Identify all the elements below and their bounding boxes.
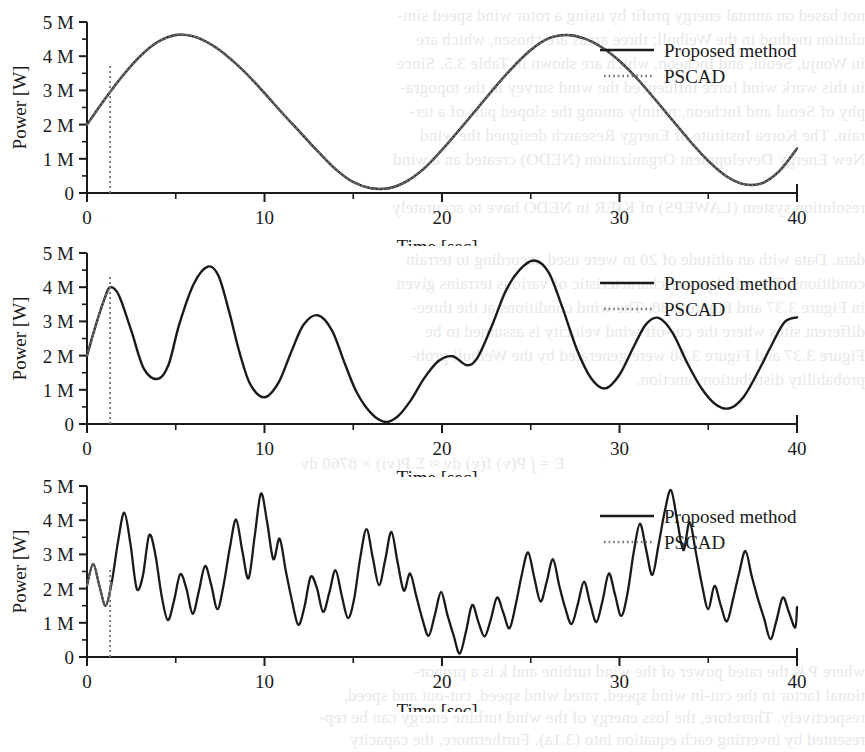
figure-a-y-tick-labels: 01 M2 M3 M4 M5 M bbox=[43, 12, 74, 204]
figure-a-x-tick-labels: 010203040 bbox=[82, 207, 806, 228]
figure-c-y-tick-0: 0 bbox=[65, 647, 75, 668]
figure-b-y-tick-3: 3 M bbox=[43, 311, 74, 332]
figure-b-x-tick-labels: 010203040 bbox=[82, 438, 806, 459]
figure-b-legend-label-pscad: PSCAD bbox=[664, 299, 725, 320]
figure-b-x-tick-3: 30 bbox=[610, 438, 629, 459]
figure-b-power-vs-time: 01 M2 M3 M4 M5 M 010203040 Power [W] Tim… bbox=[0, 231, 865, 477]
figure-a-x-tick-3: 30 bbox=[610, 207, 629, 228]
figure-c-power-vs-time: 01 M2 M3 M4 M5 M 010203040 Power [W] Tim… bbox=[0, 462, 865, 712]
figure-c-y-tick-5: 5 M bbox=[43, 476, 74, 497]
figure-c-x-tick-3: 30 bbox=[610, 671, 629, 692]
figure-b-y-tick-0: 0 bbox=[65, 414, 75, 435]
figure-b-x-tick-4: 40 bbox=[788, 438, 807, 459]
figure-c-legend: Proposed method PSCAD bbox=[600, 506, 797, 553]
figure-b-legend-label-proposed: Proposed method bbox=[664, 273, 797, 294]
figure-c-svg: 01 M2 M3 M4 M5 M 010203040 Power [W] Tim… bbox=[0, 462, 865, 712]
figure-c-y-tick-3: 3 M bbox=[43, 544, 74, 565]
figure-a-y-axis-label: Power [W] bbox=[9, 66, 30, 150]
figure-a-x-tick-4: 40 bbox=[788, 207, 807, 228]
figure-a-x-tick-0: 0 bbox=[82, 207, 92, 228]
figure-c-x-tick-2: 20 bbox=[433, 671, 452, 692]
figure-a-y-tick-2: 2 M bbox=[43, 115, 74, 136]
figure-b-x-tick-0: 0 bbox=[82, 438, 92, 459]
figure-b-y-tick-4: 4 M bbox=[43, 277, 74, 298]
figure-a-power-vs-time: 01 M2 M3 M4 M5 M 010203040 Power [W] Tim… bbox=[0, 0, 865, 246]
figure-b-y-tick-5: 5 M bbox=[43, 243, 74, 264]
figure-a-x-tick-2: 20 bbox=[433, 207, 452, 228]
figure-b-plot: 01 M2 M3 M4 M5 M 010203040 Power [W] Tim… bbox=[9, 243, 807, 477]
figure-b-y-tick-labels: 01 M2 M3 M4 M5 M bbox=[43, 243, 74, 435]
figure-c-plot: 01 M2 M3 M4 M5 M 010203040 Power [W] Tim… bbox=[9, 476, 807, 712]
figure-b-y-tick-2: 2 M bbox=[43, 346, 74, 367]
figure-c-y-tick-labels: 01 M2 M3 M4 M5 M bbox=[43, 476, 74, 668]
figure-a-y-tick-5: 5 M bbox=[43, 12, 74, 33]
figure-b-y-tick-1: 1 M bbox=[43, 380, 74, 401]
figure-a-y-tick-3: 3 M bbox=[43, 80, 74, 101]
figure-a-legend-label-proposed: Proposed method bbox=[664, 40, 797, 61]
figure-a-legend: Proposed method PSCAD bbox=[600, 40, 797, 87]
figure-c-y-tick-4: 4 M bbox=[43, 510, 74, 531]
figure-a-y-tick-1: 1 M bbox=[43, 149, 74, 170]
figure-a-y-tick-0: 0 bbox=[65, 183, 75, 204]
figure-c-legend-label-pscad: PSCAD bbox=[664, 532, 725, 553]
figure-c-x-axis-label: Time [sec] bbox=[396, 700, 477, 712]
figure-c-legend-label-proposed: Proposed method bbox=[664, 506, 797, 527]
figure-b-legend: Proposed method PSCAD bbox=[600, 273, 797, 320]
figure-b-svg: 01 M2 M3 M4 M5 M 010203040 Power [W] Tim… bbox=[0, 231, 865, 477]
figure-a-svg: 01 M2 M3 M4 M5 M 010203040 Power [W] Tim… bbox=[0, 0, 865, 246]
figure-c-x-tick-1: 10 bbox=[255, 671, 274, 692]
figure-b-x-tick-2: 20 bbox=[433, 438, 452, 459]
figure-c-y-axis-label: Power [W] bbox=[9, 530, 30, 614]
figure-a-plot: 01 M2 M3 M4 M5 M 010203040 Power [W] Tim… bbox=[9, 12, 807, 246]
figure-a-y-tick-4: 4 M bbox=[43, 46, 74, 67]
figure-b-x-tick-1: 10 bbox=[255, 438, 274, 459]
figure-c-y-tick-1: 1 M bbox=[43, 613, 74, 634]
figure-b-y-axis-label: Power [W] bbox=[9, 297, 30, 381]
bleed-through-bottom-line-4: resented by inverting each equation into… bbox=[0, 728, 865, 752]
figure-c-y-tick-2: 2 M bbox=[43, 579, 74, 600]
figure-c-x-tick-4: 40 bbox=[788, 671, 807, 692]
figure-a-legend-label-pscad: PSCAD bbox=[664, 66, 725, 87]
figure-c-x-tick-labels: 010203040 bbox=[82, 671, 806, 692]
figure-a-x-tick-1: 10 bbox=[255, 207, 274, 228]
figure-c-x-tick-0: 0 bbox=[82, 671, 92, 692]
